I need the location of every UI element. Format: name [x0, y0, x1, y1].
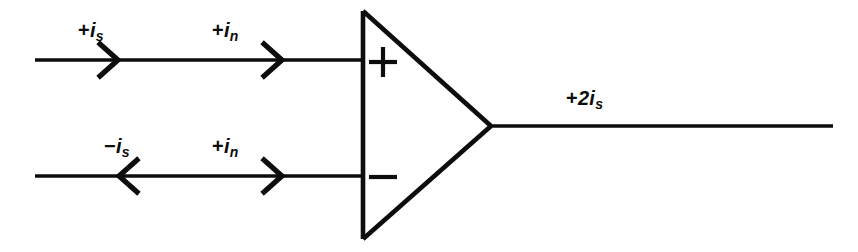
output-current-label: +2is	[566, 88, 603, 111]
top-signal-subscript: s	[96, 28, 104, 44]
top-signal-symbol: i	[90, 19, 96, 41]
output-coefficient: 2	[578, 87, 589, 109]
diagram-canvas	[0, 0, 858, 252]
amplifier-lower-edge	[363, 126, 491, 239]
output-subscript: s	[595, 96, 603, 112]
bottom-noise-sign: +	[212, 135, 224, 157]
bottom-signal-subscript: s	[122, 144, 130, 160]
top-noise-sign: +	[212, 19, 224, 41]
top-signal-sign: +	[78, 19, 90, 41]
bottom-noise-current-label: +in	[212, 136, 239, 159]
bottom-signal-current-label: −is	[104, 136, 130, 159]
bottom-noise-subscript: n	[230, 144, 239, 160]
bottom-signal-sign: −	[104, 135, 116, 157]
top-noise-symbol: i	[224, 19, 230, 41]
top-signal-current-label: +is	[78, 20, 104, 43]
bottom-noise-symbol: i	[224, 135, 230, 157]
bottom-signal-symbol: i	[116, 135, 122, 157]
output-sign: +	[566, 87, 578, 109]
top-noise-subscript: n	[230, 28, 239, 44]
circuit-diagram: +is +in −is +in +2is	[0, 0, 858, 252]
top-noise-current-label: +in	[212, 20, 239, 43]
